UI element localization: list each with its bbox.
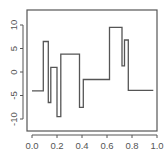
y-tick-label: 5 <box>8 46 19 51</box>
x-tick-label: 0.4 <box>75 140 88 151</box>
step-chart: 0.00.20.40.60.81.0 -10-50510 <box>0 0 168 155</box>
x-tick-label: 0.2 <box>50 140 63 151</box>
y-tick-label: 10 <box>8 20 19 31</box>
x-tick-label: 0.8 <box>125 140 138 151</box>
x-tick-label: 0.6 <box>100 140 113 151</box>
x-tick-label: 0.0 <box>25 140 38 151</box>
step-line <box>32 27 153 116</box>
y-tick-label: -10 <box>8 112 19 126</box>
x-axis: 0.00.20.40.60.81.0 <box>25 135 163 151</box>
plot-frame <box>27 10 157 131</box>
y-tick-label: 0 <box>8 69 19 74</box>
x-tick-label: 1.0 <box>150 140 163 151</box>
y-tick-label: -5 <box>8 91 19 99</box>
y-axis: -10-50510 <box>8 20 23 126</box>
